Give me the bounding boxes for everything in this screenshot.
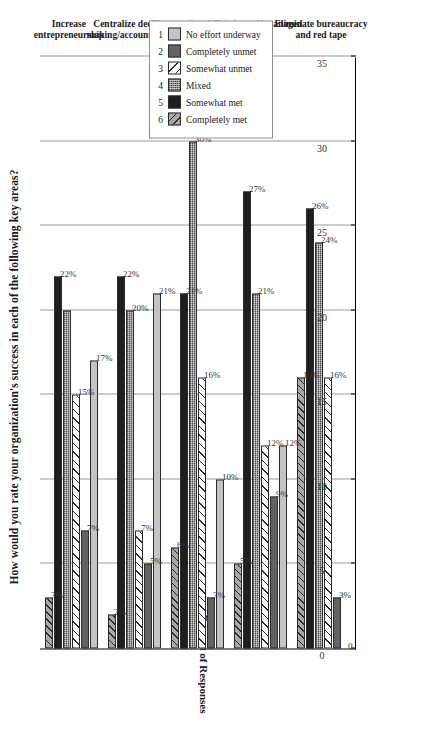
bar[interactable] xyxy=(153,293,161,648)
bar[interactable] xyxy=(126,310,134,648)
legend-item-number: 5 xyxy=(156,97,163,107)
legend: 1No effort underway2Completely unmet3Som… xyxy=(149,20,273,138)
bar[interactable] xyxy=(333,597,341,648)
bar[interactable] xyxy=(234,563,242,648)
bar[interactable] xyxy=(117,276,125,648)
bar-row: 5% xyxy=(234,56,242,648)
legend-item[interactable]: 5Somewhat met xyxy=(156,93,266,110)
bar-row: 12% xyxy=(261,56,269,648)
bar[interactable] xyxy=(171,547,179,648)
bar-value-label: 17% xyxy=(96,352,113,362)
bar-row: 3% xyxy=(333,56,341,648)
legend-item-label: Completely met xyxy=(186,114,247,124)
axis-tick xyxy=(351,224,356,225)
bar-row: 16% xyxy=(198,56,206,648)
legend-item-label: No effort underway xyxy=(186,29,261,39)
chart-figure: How would you rate your organization's s… xyxy=(0,0,446,753)
axis-tick xyxy=(351,393,356,394)
bar-value-label: 3% xyxy=(51,589,63,599)
bar[interactable] xyxy=(198,377,206,648)
bar-row: 7% xyxy=(135,56,143,648)
bar[interactable] xyxy=(189,141,197,648)
bar[interactable] xyxy=(315,242,323,648)
bar-value-label: 21% xyxy=(258,285,275,295)
bar-value-label: 15% xyxy=(78,386,95,396)
bar[interactable] xyxy=(63,310,71,648)
bar-value-label: 7% xyxy=(87,522,99,532)
legend-item-number: 1 xyxy=(156,29,163,39)
legend-item[interactable]: 6Completely met xyxy=(156,110,266,127)
bar-row: 3% xyxy=(207,56,215,648)
bar[interactable] xyxy=(90,360,98,648)
bar-value-label: 5% xyxy=(150,555,162,565)
bar-row xyxy=(63,56,71,648)
axis-tick xyxy=(351,478,356,479)
bar[interactable] xyxy=(306,208,314,648)
axis-tick-label: 20 xyxy=(317,311,327,322)
legend-item-number: 6 xyxy=(156,114,163,124)
bar-row: 22% xyxy=(117,56,125,648)
bar-value-label: 26% xyxy=(312,200,329,210)
bar[interactable] xyxy=(180,293,188,648)
bar-value-label: 21% xyxy=(186,285,203,295)
axis-tick-label: 5 xyxy=(320,564,325,575)
bar-row: 21% xyxy=(180,56,188,648)
bar-row: 26% xyxy=(306,56,314,648)
legend-items: 1No effort underway2Completely unmet3Som… xyxy=(156,25,266,127)
bar-value-label: 7% xyxy=(141,522,153,532)
bar-row: 0 xyxy=(342,56,350,648)
axis-tick xyxy=(351,140,356,141)
bar-value-label: 0 xyxy=(348,640,353,650)
bar[interactable] xyxy=(297,377,305,648)
bar[interactable] xyxy=(261,445,269,648)
bar-row: 10% xyxy=(216,56,224,648)
bar-value-label: 9% xyxy=(276,488,288,498)
bar[interactable] xyxy=(207,597,215,648)
bar[interactable] xyxy=(81,530,89,648)
axis-tick-label: 30 xyxy=(317,142,327,153)
bar-value-label: 3% xyxy=(213,589,225,599)
bar[interactable] xyxy=(243,191,251,648)
axis-tick xyxy=(351,562,356,563)
bar[interactable] xyxy=(135,530,143,648)
bar-value-label: 12% xyxy=(267,437,284,447)
bar-value-label: 27% xyxy=(249,183,266,193)
legend-item[interactable]: 2Completely unmet xyxy=(156,42,266,59)
bar-value-label: 10% xyxy=(222,471,239,481)
legend-item[interactable]: 4Mixed xyxy=(156,76,266,93)
bar-row: 6% xyxy=(171,56,179,648)
bar-row: 15% xyxy=(72,56,80,648)
bar[interactable] xyxy=(216,479,224,648)
bar[interactable] xyxy=(270,496,278,648)
bar[interactable] xyxy=(252,293,260,648)
axis-tick-label: 25 xyxy=(317,226,327,237)
bar[interactable] xyxy=(144,563,152,648)
bar-value-label: 2% xyxy=(114,606,126,616)
legend-item-number: 2 xyxy=(156,46,163,56)
bar-row: 22% xyxy=(54,56,62,648)
bar[interactable] xyxy=(45,597,53,648)
bar-row: 20% xyxy=(126,56,134,648)
bar-value-label: 5% xyxy=(240,555,252,565)
bar-value-label: 3% xyxy=(339,589,351,599)
legend-item[interactable]: 1No effort underway xyxy=(156,25,266,42)
bar-value-label: 16% xyxy=(303,369,320,379)
legend-swatch xyxy=(168,95,181,108)
bar[interactable] xyxy=(108,614,116,648)
bar-row: 17% xyxy=(90,56,98,648)
legend-item-label: Mixed xyxy=(186,80,211,90)
legend-swatch xyxy=(168,78,181,91)
axis-tick xyxy=(351,309,356,310)
bar[interactable] xyxy=(72,394,80,648)
bar-row: 21% xyxy=(252,56,260,648)
bar-value-label: 16% xyxy=(330,369,347,379)
bar-value-label: 16% xyxy=(204,369,221,379)
axis-tick xyxy=(351,55,356,56)
bar-value-label: 6% xyxy=(177,539,189,549)
legend-item-number: 3 xyxy=(156,63,163,73)
bar-row: 16% xyxy=(297,56,305,648)
bar[interactable] xyxy=(279,445,287,648)
axis-tick-label: 15 xyxy=(317,395,327,406)
legend-item[interactable]: 3Somewhat unmet xyxy=(156,59,266,76)
bar[interactable] xyxy=(324,377,332,648)
